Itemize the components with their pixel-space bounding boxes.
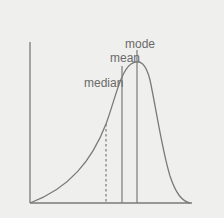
mean-label: mean	[110, 51, 140, 65]
skewed-distribution-diagram: mode mean median	[0, 0, 224, 218]
mode-label: mode	[125, 37, 155, 51]
median-label: median	[84, 76, 123, 90]
diagram-canvas: mode mean median	[0, 0, 224, 218]
